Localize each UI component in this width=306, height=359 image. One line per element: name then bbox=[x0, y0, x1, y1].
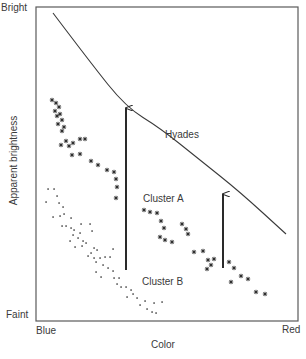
dot-marker bbox=[80, 223, 82, 224]
star-marker bbox=[50, 98, 54, 102]
star-marker bbox=[186, 232, 190, 236]
star-marker bbox=[201, 249, 205, 253]
dot-marker bbox=[63, 213, 65, 214]
star-marker bbox=[206, 258, 210, 262]
dot-marker bbox=[118, 277, 120, 278]
star-marker bbox=[229, 280, 233, 284]
star-marker bbox=[115, 185, 119, 189]
star-marker bbox=[56, 122, 60, 126]
star-marker bbox=[263, 292, 267, 296]
star-marker bbox=[114, 177, 118, 181]
dot-marker bbox=[126, 296, 128, 297]
star-marker bbox=[62, 125, 66, 129]
star-marker bbox=[112, 170, 116, 174]
dot-marker bbox=[136, 297, 138, 298]
dot-marker bbox=[79, 232, 81, 233]
y-axis-label: Apparent brightness bbox=[8, 106, 19, 216]
star-marker bbox=[67, 144, 71, 148]
dot-marker bbox=[85, 242, 87, 243]
dot-marker bbox=[95, 261, 97, 262]
star-marker bbox=[180, 222, 184, 226]
dot-marker bbox=[112, 270, 114, 271]
dot-marker bbox=[112, 248, 114, 249]
star-marker bbox=[64, 139, 68, 143]
dot-marker bbox=[70, 227, 72, 228]
star-marker bbox=[158, 235, 162, 239]
color-magnitude-diagram bbox=[0, 0, 306, 359]
star-marker bbox=[162, 226, 166, 230]
star-marker bbox=[71, 141, 75, 145]
dot-marker bbox=[45, 201, 47, 202]
x-axis-label: Color bbox=[151, 339, 175, 350]
dot-marker bbox=[77, 237, 79, 238]
star-marker bbox=[246, 277, 250, 281]
dot-marker bbox=[146, 308, 148, 309]
star-marker bbox=[60, 118, 64, 122]
dot-marker bbox=[65, 225, 67, 226]
cluster-a-label: Cluster A bbox=[143, 193, 184, 204]
star-marker bbox=[142, 208, 146, 212]
star-marker bbox=[163, 238, 167, 242]
star-marker bbox=[114, 196, 118, 200]
dot-marker bbox=[91, 230, 93, 231]
dot-marker bbox=[125, 286, 127, 287]
star-marker bbox=[148, 210, 152, 214]
star-marker bbox=[155, 211, 159, 215]
star-marker bbox=[57, 105, 61, 109]
dot-marker bbox=[120, 286, 122, 287]
star-marker bbox=[239, 274, 243, 278]
star-marker bbox=[83, 137, 87, 141]
star-marker bbox=[192, 250, 196, 254]
star-marker bbox=[170, 240, 174, 244]
dot-marker bbox=[130, 289, 132, 290]
dot-marker bbox=[70, 217, 72, 218]
dot-marker bbox=[107, 267, 109, 268]
star-marker bbox=[232, 266, 236, 270]
star-marker bbox=[53, 109, 57, 113]
star-marker bbox=[209, 263, 213, 267]
star-marker bbox=[254, 290, 258, 294]
dot-marker bbox=[93, 247, 95, 248]
star-marker bbox=[105, 168, 109, 172]
dot-marker bbox=[155, 312, 157, 313]
dot-marker bbox=[96, 249, 98, 250]
x-axis-left-label: Blue bbox=[36, 325, 56, 336]
dot-marker bbox=[81, 245, 83, 246]
dot-marker bbox=[95, 271, 97, 272]
dot-marker bbox=[153, 302, 155, 303]
dot-marker bbox=[59, 215, 61, 216]
star-marker bbox=[60, 129, 64, 133]
star-marker bbox=[54, 101, 58, 105]
dot-marker bbox=[161, 301, 163, 302]
dot-marker bbox=[132, 293, 134, 294]
star-marker bbox=[159, 219, 163, 223]
star-marker bbox=[55, 114, 59, 118]
dot-marker bbox=[47, 188, 49, 189]
star-marker bbox=[89, 159, 93, 163]
dot-marker bbox=[113, 277, 115, 278]
star-marker bbox=[205, 267, 209, 271]
star-marker bbox=[70, 153, 74, 157]
dot-marker bbox=[74, 246, 76, 247]
dot-marker bbox=[144, 300, 146, 301]
cluster-b-stars bbox=[45, 188, 163, 313]
dot-marker bbox=[87, 255, 89, 256]
dot-marker bbox=[139, 304, 141, 305]
dot-marker bbox=[100, 276, 102, 277]
cluster-b-label: Cluster B bbox=[142, 276, 183, 287]
dot-marker bbox=[151, 311, 153, 312]
dot-marker bbox=[72, 234, 74, 235]
dot-marker bbox=[104, 256, 106, 257]
dot-marker bbox=[61, 225, 63, 226]
star-marker bbox=[59, 143, 63, 147]
dot-marker bbox=[52, 216, 54, 217]
x-axis-right-label: Red bbox=[282, 324, 300, 335]
star-marker bbox=[227, 260, 231, 264]
dot-marker bbox=[89, 223, 91, 224]
dot-marker bbox=[56, 195, 58, 196]
dot-marker bbox=[62, 206, 64, 207]
dot-marker bbox=[93, 257, 95, 258]
dot-marker bbox=[90, 252, 92, 253]
star-marker bbox=[78, 152, 82, 156]
dot-marker bbox=[73, 229, 75, 230]
